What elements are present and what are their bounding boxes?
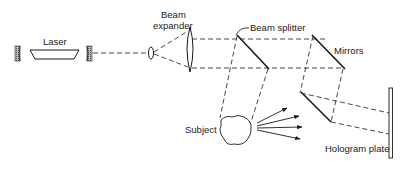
expanding-beam-bottom: [154, 54, 188, 67]
small-lens: [149, 47, 154, 59]
mirror-lower: [301, 92, 331, 122]
reference-to-plate-bottom: [331, 122, 389, 134]
laser-cavity-mirror-left: [15, 46, 20, 61]
large-lens: [187, 27, 193, 72]
hologram-plate-label: Hologram plate: [325, 143, 389, 154]
beam-splitter-leader: [236, 28, 249, 35]
object-beam-right: [251, 69, 268, 122]
holography-diagram: Laser Beam expander Beam splitter Mirror…: [0, 0, 409, 169]
mirrors-label: Mirrors: [334, 45, 364, 56]
scattered-light-arrows: [257, 108, 302, 139]
laser-cavity-mirror-right: [87, 46, 92, 61]
reference-to-plate-top: [301, 93, 389, 113]
laser-label: Laser: [43, 36, 67, 47]
beam-splitter-label: Beam splitter: [250, 22, 305, 33]
beam-splitter: [237, 35, 269, 69]
object-beam-left: [220, 36, 237, 118]
expanding-beam-top: [154, 31, 188, 52]
subject-label: Subject: [185, 124, 217, 135]
beam-expander-label-1: Beam: [161, 9, 186, 20]
subject: [220, 116, 251, 145]
reference-beam-left: [300, 36, 313, 93]
reference-beam-right: [331, 69, 343, 122]
laser-body: [30, 50, 79, 59]
beam-expander-label-2: expander: [153, 20, 193, 31]
hologram-plate: [389, 88, 393, 158]
